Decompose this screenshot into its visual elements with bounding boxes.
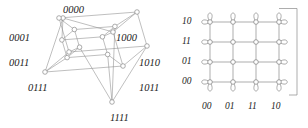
torus-vertex: [231, 60, 236, 65]
hypercube-vertex: [113, 24, 118, 29]
hypercube-vertex: [60, 38, 65, 43]
hypercube-vertex: [72, 27, 77, 32]
torus-vertex: [277, 60, 282, 65]
hypercube-edge: [137, 12, 147, 46]
torus-vertex: [254, 20, 259, 25]
hypercube-edge: [115, 12, 137, 26]
hypercube-edges: [45, 12, 147, 102]
hypercube-nodes: [43, 10, 150, 105]
figure-canvas: 00000001001101111111100010101011 1011010…: [0, 0, 308, 128]
hypercube-vertex-label-1010: 1010: [139, 57, 160, 68]
hypercube-edge: [67, 54, 108, 57]
torus-vertex: [254, 40, 259, 45]
torus-column-label-1: 01: [225, 101, 235, 111]
hypercube-vertex: [105, 52, 110, 57]
hypercube-vertex-label-1111: 1111: [110, 112, 129, 123]
torus-nodes: [208, 20, 282, 85]
torus-vertex: [208, 20, 213, 25]
hypercube-edge: [108, 54, 123, 66]
hypercube-edge: [112, 46, 147, 102]
hypercube-edge: [45, 58, 67, 72]
hypercube-edge: [108, 54, 112, 102]
hypercube-vertex: [100, 35, 105, 40]
torus-edges: [202, 9, 297, 96]
hypercube-vertex: [111, 30, 116, 35]
torus-row-label-1: 11: [182, 36, 191, 46]
hypercube-vertex-label-0001: 0001: [9, 32, 30, 43]
hypercube-vertex-label-1000: 1000: [116, 32, 137, 43]
torus-vertex: [277, 40, 282, 45]
hypercube-edge: [62, 37, 103, 40]
hypercube-vertex-label-0011: 0011: [9, 57, 29, 68]
torus-row-label-0: 10: [182, 16, 192, 26]
hypercube-vertex-label-0000: 0000: [63, 4, 84, 15]
torus-vertex: [231, 80, 236, 85]
torus-column-label-0: 00: [202, 101, 212, 111]
torus-vertex: [277, 20, 282, 25]
torus-vertex: [277, 80, 282, 85]
hypercube-edge: [102, 37, 107, 55]
hypercube-vertex: [43, 70, 48, 75]
torus-vertex: [231, 20, 236, 25]
hypercube-edge: [63, 18, 113, 32]
hypercube-vertex: [135, 10, 140, 15]
hypercube-vertex: [67, 50, 72, 55]
torus-vertex: [231, 40, 236, 45]
torus-vertex: [254, 60, 259, 65]
torus-vertex: [208, 60, 213, 65]
torus-vertex: [254, 80, 259, 85]
hypercube-vertex: [110, 100, 115, 105]
hypercube-vertex: [145, 44, 150, 49]
torus-row-label-2: 01: [182, 56, 192, 66]
hypercube-vertex: [121, 64, 126, 69]
torus-row-label-3: 00: [182, 76, 192, 86]
hypercube-vertex-label-1011: 1011: [139, 82, 159, 93]
torus-outer-wrap: [279, 9, 297, 96]
hypercube-edge: [45, 18, 63, 72]
hypercube-edge: [45, 66, 123, 72]
torus-column-label-3: 10: [271, 101, 281, 111]
torus-vertex: [208, 40, 213, 45]
hypercube-vertex: [65, 55, 70, 60]
torus-column-label-2: 11: [248, 101, 257, 111]
torus-vertex: [208, 80, 213, 85]
hypercube-vertex-label-0111: 0111: [28, 82, 47, 93]
hypercube-vertex: [57, 16, 62, 21]
hypercube-vertex: [77, 45, 82, 50]
hypercube-edge: [113, 12, 137, 32]
